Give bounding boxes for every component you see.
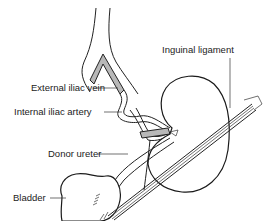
label-inguinal-ligament: Inguinal ligament <box>162 44 234 55</box>
label-donor-ureter: Donor ureter <box>48 148 101 159</box>
label-internal-iliac-artery: Internal iliac artery <box>14 106 92 117</box>
transplant-diagram: External iliac vein Internal iliac arter… <box>0 0 263 221</box>
label-external-iliac-vein: External iliac vein <box>31 82 105 93</box>
label-bladder: Bladder <box>13 192 46 203</box>
